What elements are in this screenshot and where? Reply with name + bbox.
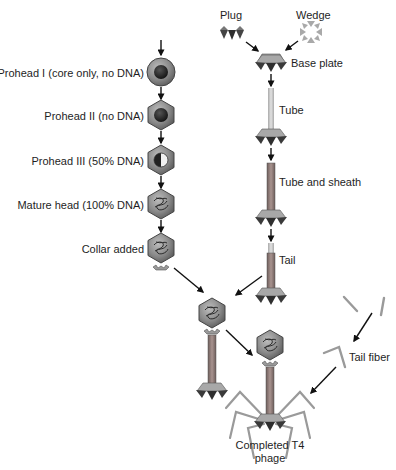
label-prohead-1: Prohead I (core only, no DNA)	[0, 67, 144, 79]
head-pathway	[147, 40, 175, 270]
prohead-1-icon	[147, 58, 175, 86]
label-tail: Tail	[279, 254, 296, 266]
tail-icon	[255, 243, 287, 305]
mature-head-icon	[148, 189, 174, 219]
label-completed-phage-line1: Completed T4	[230, 439, 310, 451]
prohead-3-icon	[148, 145, 174, 175]
label-prohead-3: Prohead III (50% DNA)	[32, 155, 145, 167]
head-tail-joined-icon	[196, 298, 228, 400]
prohead-2-icon	[148, 100, 174, 130]
plug-icon	[220, 26, 244, 40]
collar-added-icon	[148, 233, 174, 270]
label-tube-and-sheath: Tube and sheath	[279, 176, 361, 188]
label-completed-phage-line2: phage	[230, 452, 310, 464]
tube-icon	[255, 88, 287, 146]
label-mature-head: Mature head (100% DNA)	[17, 199, 144, 211]
label-plug: Plug	[220, 9, 242, 21]
label-tail-fiber: Tail fiber	[349, 351, 390, 363]
tube-and-sheath-icon	[255, 163, 287, 227]
label-collar-added: Collar added	[82, 243, 144, 255]
wedge-icon	[300, 21, 322, 43]
label-wedge: Wedge	[296, 9, 331, 21]
base-plate-icon	[255, 54, 287, 72]
label-base-plate: Base plate	[291, 57, 343, 69]
label-tube: Tube	[279, 104, 304, 116]
label-prohead-2: Prohead II (no DNA)	[44, 110, 144, 122]
